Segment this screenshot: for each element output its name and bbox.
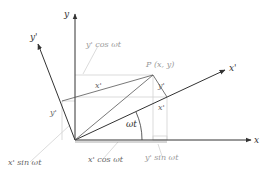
segment-label-y-prime-left: y' bbox=[49, 108, 57, 117]
y-axis-label: y bbox=[63, 9, 70, 19]
y-prime-axis-label: y' bbox=[29, 32, 38, 42]
label-x-prime-cos: x' cos ωt bbox=[88, 155, 124, 164]
segment-label-x-prime-right: x' bbox=[158, 103, 165, 112]
label-x-prime-sin: x' sin ωt bbox=[8, 158, 42, 167]
construction-lines bbox=[62, 75, 167, 140]
x-axis-label: x bbox=[254, 135, 259, 145]
x-prime-axis-label: x' bbox=[229, 63, 237, 73]
rotating-frame-diagram: x y x' y' P (x, y) ωt x' y' y' x' y' cos… bbox=[0, 0, 261, 172]
segment-label-y-prime-right: y' bbox=[157, 81, 165, 90]
segment-label-x-prime-top: x' bbox=[95, 81, 102, 90]
y-prime-axis bbox=[38, 44, 75, 140]
point-label: P (x, y) bbox=[145, 60, 174, 69]
angle-label: ωt bbox=[126, 119, 137, 129]
label-y-prime-cos: y' cos ωt bbox=[85, 40, 122, 49]
label-y-prime-sin: y' sin ωt bbox=[144, 153, 179, 162]
